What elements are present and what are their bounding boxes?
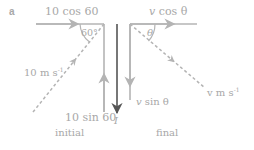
initial-caption: initial xyxy=(55,128,84,138)
initial-angle-label: 60° xyxy=(81,28,98,38)
final-caption: final xyxy=(156,128,178,138)
part-label: a xyxy=(9,7,15,17)
final-vertical-label: v sin θ xyxy=(136,97,169,107)
impulse-label: I xyxy=(114,116,118,126)
final-resultant-vector xyxy=(130,24,205,88)
initial-vertical-label: 10 sin 60 xyxy=(65,112,116,123)
momentum-vector-diagram: a 10 cos 60 60° 10 m s-1 10 sin 60 initi… xyxy=(0,0,254,150)
final-resultant-label: v m s-1 xyxy=(207,87,240,98)
final-horizontal-label: v cos θ xyxy=(149,6,187,17)
initial-resultant-label: 10 m s-1 xyxy=(24,67,64,78)
initial-horizontal-label: 10 cos 60 xyxy=(45,6,98,17)
final-angle-label: θ xyxy=(147,28,153,38)
